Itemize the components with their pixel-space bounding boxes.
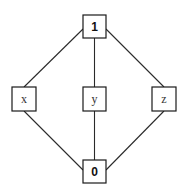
node-z: z xyxy=(152,87,176,111)
node-x-label: x xyxy=(21,92,27,106)
node-bottom-label: 0 xyxy=(91,165,98,179)
node-top-label: 1 xyxy=(91,20,98,34)
edge-1-x xyxy=(24,29,83,87)
edge-x-0 xyxy=(24,111,83,170)
node-z-label: z xyxy=(161,92,166,106)
node-y-label: y xyxy=(92,92,98,106)
node-x: x xyxy=(12,87,36,111)
node-bottom: 0 xyxy=(83,160,106,183)
hasse-diagram: 1 x y z 0 xyxy=(0,0,185,194)
node-top: 1 xyxy=(83,15,106,38)
node-y: y xyxy=(83,87,106,111)
edge-1-z xyxy=(106,29,164,87)
edge-z-0 xyxy=(106,111,164,170)
